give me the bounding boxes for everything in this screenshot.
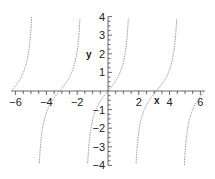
x-tick-label: −2 [71,96,84,108]
tan-branch [11,17,31,91]
x-tick-label: 6 [197,96,203,108]
x-tick-label: 2 [136,96,142,108]
y-tick-label: 2 [99,48,105,60]
y-tick-label: 1 [99,66,105,78]
y-tick-label: −3 [92,141,105,153]
y-tick-label: 3 [99,29,105,41]
x-tick-label: −6 [9,96,22,108]
y-tick-label: 4 [99,11,105,23]
x-tick-label: −4 [40,96,53,108]
y-tick-label: −1 [92,104,105,116]
y-tick-label: −2 [92,122,105,134]
x-tick-label: 4 [167,96,173,108]
tan-plot: −6−4−22464321−1−2−3−4 x y [0,0,215,179]
x-axis-label: x [154,95,160,106]
y-tick-label: −4 [92,159,105,171]
y-axis-label: y [86,49,92,60]
